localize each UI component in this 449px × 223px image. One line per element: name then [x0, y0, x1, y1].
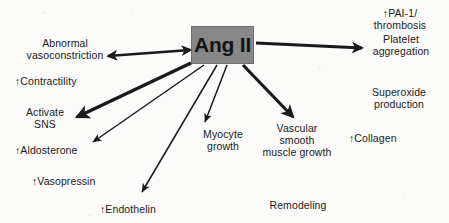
arrow-to-aldosterone	[93, 65, 204, 142]
node-remodeling: Remodeling	[258, 200, 338, 212]
ang-ii-label: Ang II	[194, 33, 251, 57]
node-pai-1-thrombosis: ↑PAI-1/ thrombosis	[362, 8, 438, 32]
node-contractility: ↑Contractility	[15, 76, 105, 88]
node-platelet-aggregation: Platelet aggregation	[360, 34, 442, 58]
ang-ii-node[interactable]: Ang II	[191, 26, 254, 64]
node-myocyte-growth: Myocyte growth	[195, 129, 251, 153]
angiotensin-ii-effects-diagram: Ang II Abnormal vasoconstriction↑Contrac…	[0, 0, 449, 223]
arrow-to-abnormal-vasoconstriction	[108, 50, 190, 56]
node-endothelin: ↑Endothelin	[100, 204, 184, 216]
node-vascular-smooth-muscle-growth: Vascular smooth muscle growth	[256, 123, 338, 158]
arrow-to-myocyte-growth	[205, 65, 227, 122]
arrow-to-platelet-aggregation	[256, 43, 362, 48]
node-vasopressin: ↑Vasopressin	[32, 176, 122, 188]
node-superoxide-production: Superoxide production	[359, 87, 439, 111]
node-activate-sns: Activate SNS	[16, 107, 74, 131]
node-aldosterone: ↑Aldosterone	[15, 145, 105, 157]
node-abnormal-vasoconstriction: Abnormal vasoconstriction	[13, 38, 117, 62]
arrow-to-vascular-smooth-muscle-growth	[243, 65, 293, 117]
arrow-to-activate-sns	[77, 63, 191, 117]
node-collagen: ↑Collagen	[349, 133, 421, 145]
